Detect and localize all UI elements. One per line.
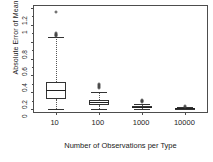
- x-tick-3: [185, 112, 186, 115]
- y-tick-label-6: 1.2: [21, 16, 28, 25]
- plot-area: 00.20.40.60.811.2: [33, 5, 208, 113]
- x-tick-label-1000: 1000: [133, 118, 150, 127]
- y-axis-title: Absolute Error of Mean Value: [12, 0, 19, 93]
- y-tick-label-2: 0.4: [21, 83, 28, 92]
- x-tick-0: [56, 112, 57, 115]
- x-tick-label-10000: 10000: [174, 118, 195, 127]
- y-tick-label-0: 0: [21, 114, 28, 118]
- x-tick-1: [99, 112, 100, 115]
- x-tick-2: [142, 112, 143, 115]
- y-tick-label-4: 0.8: [21, 50, 28, 59]
- y-tick-label-5: 1: [21, 30, 28, 34]
- x-tick-label-100: 100: [92, 118, 105, 127]
- box-plot-10000: [34, 6, 207, 112]
- x-axis-title: Number of Observations per Type: [33, 141, 208, 150]
- y-tick-label-1: 0.2: [21, 100, 28, 109]
- y-tick-label-3: 0.6: [21, 67, 28, 76]
- x-tick-label-10: 10: [50, 118, 58, 127]
- outlier-point: [184, 105, 187, 108]
- median-line: [175, 108, 195, 109]
- boxplot-figure: Absolute Error of Mean Value 00.20.40.60…: [0, 0, 213, 162]
